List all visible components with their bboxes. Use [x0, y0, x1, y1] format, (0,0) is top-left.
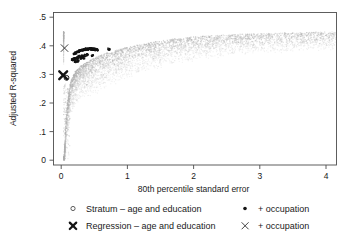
data-point — [234, 48, 235, 49]
data-point — [257, 50, 258, 51]
data-point — [314, 44, 315, 45]
data-point — [66, 115, 67, 116]
data-point — [299, 42, 300, 43]
data-point — [263, 36, 264, 37]
data-point — [250, 34, 251, 35]
legend-marker-filled-dot-icon — [243, 207, 247, 211]
data-point — [182, 42, 183, 43]
data-point — [161, 41, 162, 42]
data-point — [216, 44, 217, 45]
data-point — [95, 57, 96, 58]
data-point — [285, 36, 286, 37]
data-point — [297, 38, 298, 39]
data-point — [65, 158, 66, 159]
data-point — [63, 107, 64, 108]
data-point — [70, 95, 71, 96]
data-point — [326, 38, 327, 39]
data-point — [64, 119, 65, 120]
data-point — [154, 43, 155, 44]
data-point — [313, 34, 314, 35]
data-point — [131, 53, 132, 54]
data-point — [103, 63, 104, 64]
data-point — [292, 50, 293, 51]
data-point — [71, 79, 72, 80]
data-point — [68, 96, 69, 97]
data-point — [211, 47, 212, 48]
data-point — [168, 47, 169, 48]
data-point — [161, 49, 162, 50]
data-point — [207, 45, 208, 46]
data-point — [150, 42, 151, 43]
data-point — [245, 48, 246, 49]
data-point — [68, 130, 69, 131]
data-point — [233, 41, 234, 42]
data-point — [131, 76, 132, 77]
data-point — [68, 127, 69, 128]
data-point — [206, 47, 207, 48]
data-point — [245, 42, 246, 43]
data-point — [66, 92, 67, 93]
data-point — [296, 41, 297, 42]
data-point — [120, 62, 121, 63]
data-point — [259, 41, 260, 42]
data-point — [123, 58, 124, 59]
data-point — [281, 52, 282, 53]
data-point — [120, 77, 121, 78]
data-point — [188, 44, 189, 45]
data-point — [142, 59, 143, 60]
data-point — [247, 50, 248, 51]
data-point — [268, 37, 269, 38]
data-point — [148, 60, 149, 61]
data-point — [107, 63, 108, 64]
data-point — [314, 42, 315, 43]
data-point — [63, 57, 64, 58]
data-point — [135, 52, 136, 53]
data-point — [121, 49, 122, 50]
data-point — [201, 50, 202, 51]
data-point — [184, 57, 185, 58]
data-point — [154, 49, 155, 50]
data-point — [143, 65, 144, 66]
data-point — [88, 73, 89, 74]
data-point — [151, 49, 152, 50]
data-point — [154, 56, 155, 57]
data-point — [135, 55, 136, 56]
data-point — [201, 40, 202, 41]
data-point — [291, 49, 292, 50]
data-point — [264, 33, 265, 34]
data-point — [219, 35, 220, 36]
data-point — [215, 46, 216, 47]
data-point — [284, 38, 285, 39]
data-point — [169, 46, 170, 47]
data-point — [178, 58, 179, 59]
data-point — [67, 98, 68, 99]
data-point — [67, 105, 68, 106]
data-point — [148, 49, 149, 50]
data-point — [97, 86, 98, 87]
data-point — [236, 44, 237, 45]
data-point — [142, 58, 143, 59]
data-point — [152, 56, 153, 57]
data-point — [291, 36, 292, 37]
data-point — [172, 44, 173, 45]
data-point — [113, 67, 114, 68]
data-point — [248, 41, 249, 42]
data-point — [269, 39, 270, 40]
data-point — [88, 68, 89, 69]
data-point — [118, 56, 119, 57]
data-point — [127, 76, 128, 77]
data-point — [157, 59, 158, 60]
data-point — [68, 116, 69, 117]
data-point — [280, 32, 281, 33]
data-point — [120, 75, 121, 76]
data-point — [316, 37, 317, 38]
data-point — [88, 79, 89, 80]
data-point — [216, 51, 217, 52]
y-tick-label-1: .1 — [39, 127, 46, 137]
data-point — [164, 53, 165, 54]
data-point — [255, 45, 256, 46]
data-point — [125, 68, 126, 69]
data-point — [220, 54, 221, 55]
data-point — [156, 54, 157, 55]
data-point — [217, 45, 218, 46]
